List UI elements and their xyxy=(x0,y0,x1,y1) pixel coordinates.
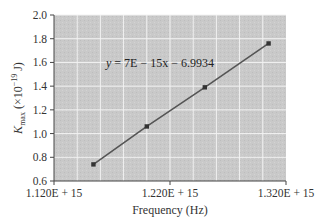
y-tick-label: 1.0 xyxy=(33,128,48,140)
y-tick-label: 1.4 xyxy=(33,80,48,92)
y-tick-label: 1.2 xyxy=(33,104,48,116)
x-tick-label: 1.120E + 15 xyxy=(26,187,83,199)
y-axis-label: Kmax (×10−19 J) xyxy=(10,62,27,135)
data-point xyxy=(203,85,207,89)
y-tick-label: 2.0 xyxy=(33,9,48,21)
y-tick-label: 1.6 xyxy=(33,56,48,68)
y-tick-label: 1.8 xyxy=(33,33,48,45)
x-tick-label: 1.320E + 15 xyxy=(258,187,315,199)
chart: 0.60.81.01.21.41.61.82.01.120E + 151.220… xyxy=(0,0,322,223)
y-tick-label: 0.8 xyxy=(33,151,48,163)
trendline-equation: y = 7E − 15x − 6.9934 xyxy=(105,56,214,70)
data-point xyxy=(91,162,95,166)
data-point xyxy=(266,41,270,45)
data-point xyxy=(145,124,149,128)
x-tick-label: 1.220E + 15 xyxy=(142,187,199,199)
y-tick-label: 0.6 xyxy=(33,175,48,187)
x-axis-label: Frequency (Hz) xyxy=(132,203,208,217)
